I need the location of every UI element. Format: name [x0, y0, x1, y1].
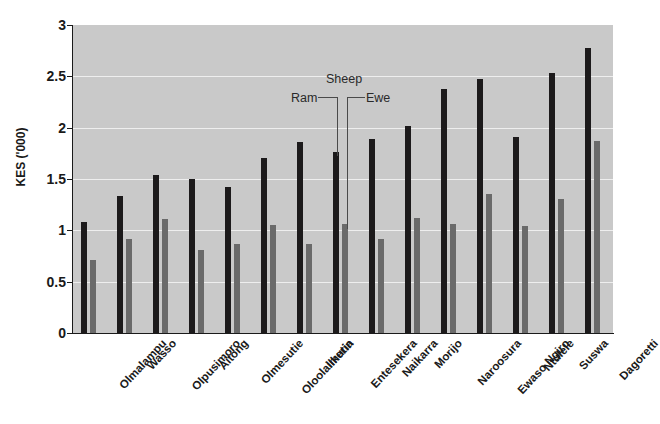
bar-ram [153, 175, 159, 333]
bar-ewe [162, 219, 168, 333]
bar-ewe [198, 250, 204, 333]
y-axis-title: KES ('000) [14, 128, 28, 187]
bars-layer [73, 25, 613, 333]
bar-group [585, 25, 601, 333]
bar-ram [369, 139, 375, 333]
bar-group [225, 25, 241, 333]
bar-ewe [126, 239, 132, 333]
bar-ewe [270, 225, 276, 333]
bar-group [261, 25, 277, 333]
x-axis-labels: OlmalampuWassoOlpusimoroAitongOlmesutieO… [0, 333, 641, 424]
bar-ewe [90, 260, 96, 333]
bar-ewe [306, 244, 312, 333]
bar-ram [513, 137, 519, 333]
bar-ram [585, 48, 591, 333]
x-axis-label: Olmesutie [259, 337, 306, 386]
bar-ram [549, 73, 555, 333]
bar-ewe [414, 218, 420, 333]
bar-group [333, 25, 349, 333]
bar-ewe [594, 141, 600, 333]
y-tick-label: 1.5 [47, 172, 66, 186]
y-tick-label: 0.5 [47, 275, 66, 289]
bar-group [405, 25, 421, 333]
y-tick-label: 2 [58, 121, 66, 135]
bar-ram [189, 179, 195, 333]
y-tick-label: 3 [58, 18, 66, 32]
bar-group [117, 25, 133, 333]
bar-group [513, 25, 529, 333]
bar-ewe [342, 224, 348, 333]
bar-group [441, 25, 457, 333]
x-axis-label: Naroosura [475, 337, 523, 387]
bar-ram [477, 79, 483, 333]
x-axis-label: Ilkerin [324, 337, 356, 370]
bar-ram [405, 126, 411, 333]
bar-ram [225, 187, 231, 333]
bar-ram [117, 196, 123, 333]
x-axis-label: Dagoretti [617, 337, 660, 382]
x-axis-label: Suswa [577, 337, 611, 372]
bar-group [81, 25, 97, 333]
bar-ewe [486, 194, 492, 333]
bar-ram [441, 89, 447, 333]
bar-group [189, 25, 205, 333]
bar-group [369, 25, 385, 333]
bar-ram [333, 152, 339, 333]
bar-ewe [234, 244, 240, 333]
bar-ewe [450, 224, 456, 333]
bar-group [549, 25, 565, 333]
bar-ewe [558, 199, 564, 333]
bar-group [153, 25, 169, 333]
bar-ewe [522, 226, 528, 333]
bar-group [297, 25, 313, 333]
y-tick-label: 1 [58, 223, 66, 237]
bar-ram [81, 222, 87, 333]
bar-ram [297, 142, 303, 333]
bar-ewe [378, 239, 384, 333]
bar-ram [261, 158, 267, 333]
bar-group [477, 25, 493, 333]
y-tick-label: 2.5 [47, 69, 66, 83]
